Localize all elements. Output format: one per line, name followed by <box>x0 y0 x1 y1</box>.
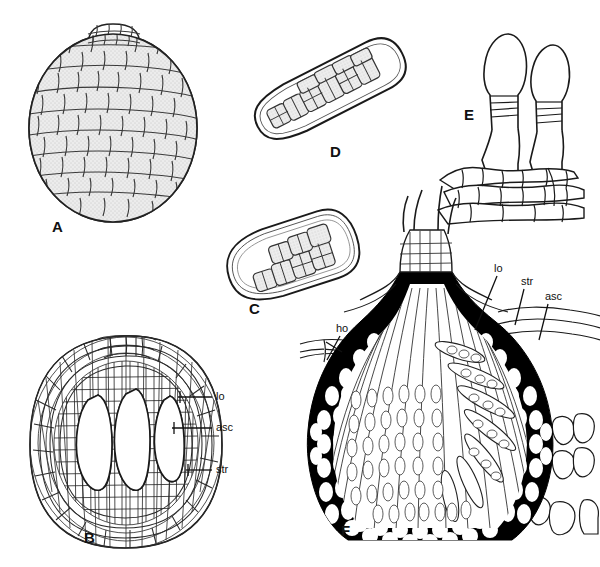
panel-e-basal-cells <box>438 168 584 225</box>
annotation-label-b-lo: lo <box>216 390 225 402</box>
panel-d-ascus: D <box>246 30 433 187</box>
annotation-label-f-str: str <box>521 275 534 287</box>
panel-c-ascus: C <box>218 202 371 322</box>
annotation-label-f-asc: asc <box>545 290 563 302</box>
annotation-label-f-lo: lo <box>494 262 503 274</box>
panel-letter-b: B <box>84 529 95 546</box>
panel-letter-c: C <box>249 300 260 317</box>
panel-a-ascoma-surface: A <box>29 24 199 235</box>
figure-plate: A <box>0 0 600 567</box>
panel-b-locules-overlay <box>76 389 184 490</box>
panel-letter-d: D <box>330 143 341 160</box>
annotation-label-f-ho: ho <box>336 322 348 334</box>
panel-letter-a: A <box>52 218 63 235</box>
figure-canvas: A <box>0 0 600 567</box>
panel-letter-f: F <box>341 522 350 539</box>
annotation-label-b-asc: asc <box>216 421 234 433</box>
panel-f-surface-layers <box>498 307 600 340</box>
panel-e-asci-hymenium: E <box>438 34 584 224</box>
panel-letter-e: E <box>464 106 474 123</box>
annotation-label-b-str: str <box>216 463 229 475</box>
panel-b-ascoma-section: B <box>30 336 222 550</box>
